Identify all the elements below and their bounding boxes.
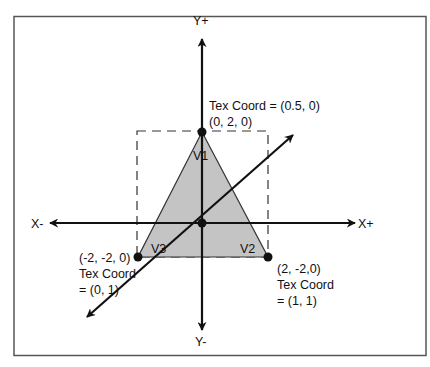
vertex-v1-point xyxy=(198,128,207,137)
vertex-v1-label: V1 xyxy=(193,149,208,163)
vertex-v1-position: (0, 2, 0) xyxy=(209,115,252,129)
vertex-v2-texcoord-label: Tex Coord xyxy=(277,278,334,292)
vertex-v3-texcoord-value: = (0, 1) xyxy=(79,283,119,297)
vertex-v2-position: (2, -2,0) xyxy=(277,262,321,276)
axis-label-x-neg: X- xyxy=(31,217,44,231)
vertex-v3-label: V3 xyxy=(151,242,166,256)
vertex-v3-texcoord-label: Tex Coord xyxy=(79,267,136,281)
vertex-v1-texcoord: Tex Coord = (0.5, 0) xyxy=(209,99,320,113)
vertex-v2-point xyxy=(264,253,273,262)
vertex-v2-texcoord-value: = (1, 1) xyxy=(277,294,317,308)
vertex-v3-position: (-2, -2, 0) xyxy=(79,251,130,265)
triangle-texcoord-diagram: Y+ Y- X- X+ V1 V2 V3 Tex Coord = (0.5, 0… xyxy=(0,0,430,367)
axis-label-y-neg: Y- xyxy=(195,335,206,349)
vertex-v2-label: V2 xyxy=(240,242,255,256)
vertex-v3-point xyxy=(134,253,143,262)
axis-label-x-pos: X+ xyxy=(358,217,374,231)
origin-point xyxy=(198,219,207,228)
axis-label-y-pos: Y+ xyxy=(193,14,209,28)
